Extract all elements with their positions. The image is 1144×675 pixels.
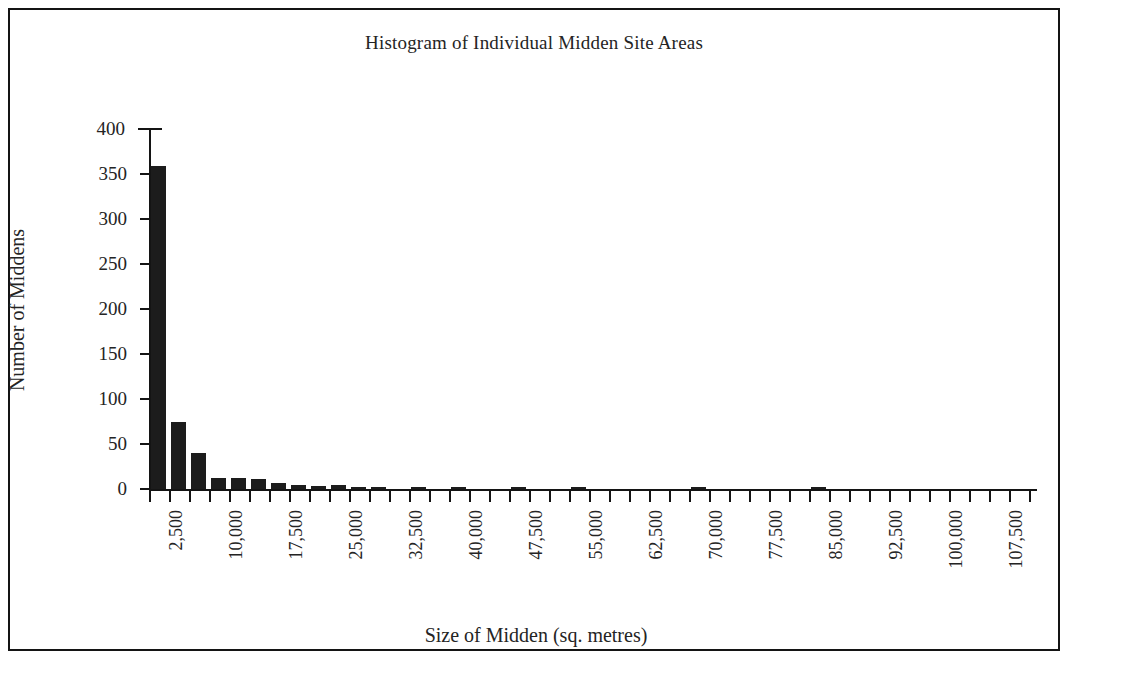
x-axis-tick [849, 489, 851, 502]
x-axis-tick [1009, 489, 1011, 502]
x-axis-tick [529, 489, 531, 502]
x-axis-tick-label: 17,500 [286, 510, 307, 560]
x-axis-tick [489, 489, 491, 502]
x-axis-tick [609, 489, 611, 502]
histogram-bar [231, 478, 246, 489]
x-axis-tick [889, 489, 891, 502]
x-axis-tick [909, 489, 911, 502]
x-axis-tick [869, 489, 871, 502]
x-axis-tick [589, 489, 591, 502]
x-axis-title: Size of Midden (sq. metres) [10, 624, 1062, 647]
x-axis-tick-label: 92,500 [886, 510, 907, 560]
histogram-bar [171, 422, 186, 490]
x-axis-tick [689, 489, 691, 502]
x-axis-tick [969, 489, 971, 502]
x-axis-tick-label: 10,000 [226, 510, 247, 560]
x-axis-tick-label: 70,000 [706, 510, 727, 560]
y-axis-tick-label: 400 [97, 118, 126, 140]
x-axis-tick [349, 489, 351, 502]
x-axis-tick [189, 489, 191, 502]
x-axis-tick [769, 489, 771, 502]
histogram-bar [151, 166, 166, 489]
histogram-bar [191, 453, 206, 489]
y-axis-tick-label: 200 [99, 298, 128, 320]
y-axis-title: Number of Middens [6, 130, 29, 490]
x-axis-tick [169, 489, 171, 502]
x-axis-tick [229, 489, 231, 502]
x-axis-tick [249, 489, 251, 502]
x-axis-tick-label: 107,500 [1006, 510, 1027, 569]
histogram-bar [311, 486, 326, 489]
histogram-bar [451, 487, 466, 489]
y-axis-tick-label: 50 [108, 433, 127, 455]
x-axis-tick [749, 489, 751, 502]
x-axis-tick [949, 489, 951, 502]
x-axis-tick [309, 489, 311, 502]
x-axis-tick [789, 489, 791, 502]
x-axis-tick [449, 489, 451, 502]
x-axis-line [149, 489, 1037, 491]
x-axis-tick [649, 489, 651, 502]
x-axis-tick-label: 25,000 [346, 510, 367, 560]
histogram-bar [411, 487, 426, 489]
x-axis-tick [429, 489, 431, 502]
chart-title: Histogram of Individual Midden Site Area… [10, 32, 1058, 54]
x-axis-tick [809, 489, 811, 502]
y-axis-tick: 400 [138, 128, 162, 130]
x-axis-tick [549, 489, 551, 502]
y-axis-tick-label: 100 [99, 388, 128, 410]
histogram-bar [251, 479, 266, 489]
histogram-bar [331, 485, 346, 489]
x-axis-tick-label: 85,000 [826, 510, 847, 560]
x-axis-tick [329, 489, 331, 502]
x-axis-tick-label: 55,000 [586, 510, 607, 560]
y-axis-tick-label: 300 [99, 208, 128, 230]
y-axis-tick-label: 250 [99, 253, 128, 275]
y-axis-tick-label: 150 [99, 343, 128, 365]
x-axis-tick-label: 40,000 [466, 510, 487, 560]
x-axis-tick [269, 489, 271, 502]
x-axis-tick-label: 62,500 [646, 510, 667, 560]
x-axis-tick [669, 489, 671, 502]
histogram-bar [291, 485, 306, 489]
x-axis-tick [509, 489, 511, 502]
x-axis-tick [149, 489, 151, 502]
histogram-bar [511, 487, 526, 489]
histogram-bar [571, 487, 586, 489]
x-axis-tick [469, 489, 471, 502]
x-axis-tick [709, 489, 711, 502]
x-axis-tick-label: 100,000 [946, 510, 967, 569]
histogram-bar [811, 487, 826, 489]
x-axis-tick [929, 489, 931, 502]
x-axis-tick-label: 32,500 [406, 510, 427, 560]
histogram-bar [271, 483, 286, 489]
y-axis-tick-label: 0 [118, 478, 128, 500]
x-axis-tick [389, 489, 391, 502]
y-axis-tick-label: 350 [99, 163, 128, 185]
x-axis-tick-label: 2,500 [166, 510, 187, 551]
histogram-bar [371, 487, 386, 489]
histogram-bar [691, 487, 706, 489]
x-axis-tick [409, 489, 411, 502]
x-axis-tick [289, 489, 291, 502]
x-axis-tick [569, 489, 571, 502]
x-axis-tick [989, 489, 991, 502]
x-axis-tick [209, 489, 211, 502]
x-axis-tick [1029, 489, 1031, 502]
x-axis-tick [829, 489, 831, 502]
x-axis-tick [369, 489, 371, 502]
histogram-bar [211, 478, 226, 489]
x-axis-tick-label: 47,500 [526, 510, 547, 560]
plot-area: 050100150200250300350400 [149, 129, 1035, 489]
x-axis-tick [629, 489, 631, 502]
histogram-bar [351, 487, 366, 489]
figure-frame: Histogram of Individual Midden Site Area… [8, 8, 1060, 651]
x-axis-tick [729, 489, 731, 502]
x-axis-tick-label: 77,500 [766, 510, 787, 560]
